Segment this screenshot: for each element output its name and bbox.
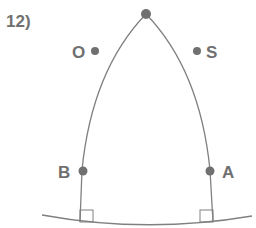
apex-point [141, 9, 151, 19]
label-b: B [58, 163, 70, 182]
right-angle-marker-right [200, 210, 213, 222]
point-a [206, 167, 215, 176]
label-s: S [206, 43, 217, 62]
point-s [193, 47, 201, 55]
right-arc [146, 14, 213, 222]
label-a: A [222, 163, 234, 182]
left-arc [80, 14, 146, 222]
label-o: O [72, 43, 85, 62]
problem-number: 12) [6, 12, 31, 31]
point-b [79, 167, 88, 176]
geometry-diagram: 12) O S B A [0, 0, 256, 228]
right-angle-marker-left [80, 210, 93, 222]
point-o [91, 47, 99, 55]
base-arc [42, 215, 252, 225]
